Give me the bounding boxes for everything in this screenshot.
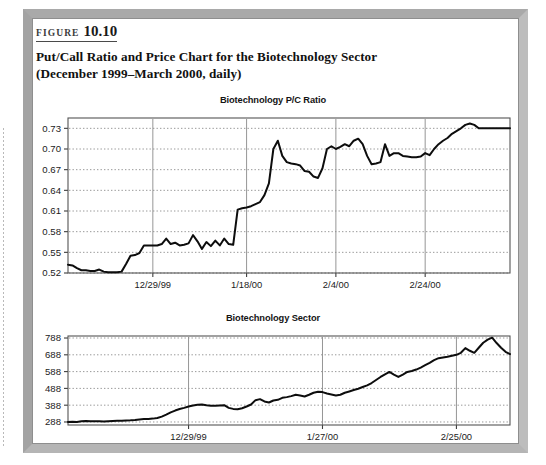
y-tick-label: 0.70 — [42, 143, 61, 154]
figure-heading: FIGURE10.10 Put/Call Ratio and Price Cha… — [36, 22, 496, 82]
chart-2-title: Biotechnology Sector — [0, 313, 546, 323]
y-tick-label: 488 — [45, 383, 61, 394]
y-tick-label: 0.61 — [42, 205, 61, 216]
y-tick-label: 0.73 — [42, 123, 61, 134]
chart-1-plot: 0.520.550.580.610.640.670.700.7312/29/99… — [0, 110, 546, 300]
page-title: Put/Call Ratio and Price Chart for the B… — [36, 49, 496, 82]
x-tick-label: 12/29/99 — [170, 431, 207, 442]
y-tick-label: 288 — [45, 416, 61, 427]
figure-label-word: FIGURE — [36, 28, 80, 38]
x-tick-label: 12/29/99 — [135, 279, 172, 290]
figure-number: 10.10 — [84, 23, 118, 39]
series-line — [68, 124, 510, 273]
y-tick-label: 688 — [45, 349, 61, 360]
figure-title-line-1: Put/Call Ratio and Price Chart for the B… — [36, 49, 496, 66]
chart-1-title: Biotechnology P/C Ratio — [0, 95, 546, 105]
x-tick-label: 2/24/00 — [410, 279, 441, 290]
figure-title-line-2: (December 1999–March 2000, daily) — [36, 66, 496, 83]
figure-root: FIGURE10.10 Put/Call Ratio and Price Cha… — [0, 0, 546, 465]
x-tick-label: 1/27/00 — [307, 431, 338, 442]
y-tick-label: 0.67 — [42, 164, 61, 175]
y-tick-label: 0.52 — [42, 267, 61, 278]
x-tick-label: 2/4/00 — [323, 279, 349, 290]
series-line — [68, 338, 510, 422]
figure-label: FIGURE10.10 — [36, 22, 117, 42]
y-tick-label: 0.64 — [42, 185, 61, 196]
x-tick-label: 1/18/00 — [231, 279, 262, 290]
x-tick-label: 2/25/00 — [441, 431, 472, 442]
y-tick-label: 788 — [45, 332, 61, 343]
chart-2-plot: 28838848858868878812/29/991/27/002/25/00 — [0, 328, 546, 458]
y-tick-label: 388 — [45, 400, 61, 411]
y-tick-label: 588 — [45, 366, 61, 377]
y-tick-label: 0.58 — [42, 226, 61, 237]
y-tick-label: 0.55 — [42, 247, 61, 258]
